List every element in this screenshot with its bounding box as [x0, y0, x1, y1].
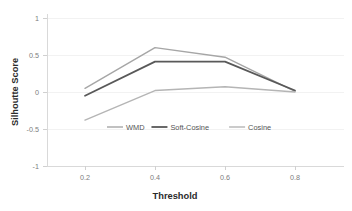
y-tick-label-1: 1	[35, 14, 39, 23]
legend-label-wmd: WMD	[126, 123, 144, 132]
series-line-soft-cosine	[85, 62, 295, 96]
y-axis-tick-labels: 1 0.5 0 -0.5 -1	[27, 14, 39, 171]
y-axis-tickmarks	[43, 18, 47, 166]
data-series-group	[85, 48, 295, 121]
y-tick-label-0: 0	[35, 88, 39, 97]
x-tick-label-0.6: 0.6	[220, 173, 230, 182]
y-tick-label-0.5: 0.5	[29, 51, 39, 60]
gridlines	[47, 18, 344, 129]
x-axis-title: Threshold	[153, 191, 198, 201]
x-tick-label-0.8: 0.8	[290, 173, 300, 182]
x-tick-label-0.4: 0.4	[150, 173, 160, 182]
silhouette-score-line-chart: 1 0.5 0 -0.5 -1 0.2 0.4 0.6 0.8 Threshol…	[0, 0, 352, 211]
x-tick-label-0.2: 0.2	[80, 173, 90, 182]
x-axis-tickmarks	[85, 166, 295, 170]
chart-canvas: 1 0.5 0 -0.5 -1 0.2 0.4 0.6 0.8 Threshol…	[0, 0, 352, 211]
y-tick-label-neg1: -1	[33, 162, 39, 171]
chart-legend: WMDSoft-CosineCosine	[107, 123, 271, 132]
series-line-wmd	[85, 48, 295, 92]
legend-label-soft-cosine: Soft-Cosine	[170, 123, 209, 132]
x-axis-tick-labels: 0.2 0.4 0.6 0.8	[80, 173, 300, 182]
legend-label-cosine: Cosine	[248, 123, 271, 132]
y-axis-title: Silhoutte Score	[10, 58, 20, 126]
y-tick-label-neg0.5: -0.5	[27, 125, 39, 134]
